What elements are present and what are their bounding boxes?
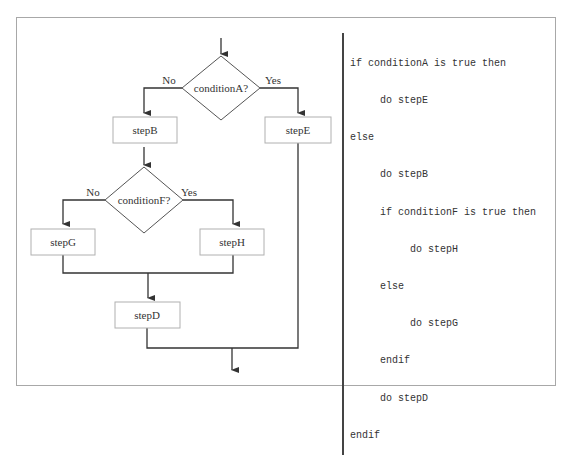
conditionA-no-arrow: [144, 88, 182, 113]
stepG-label: stepG: [50, 236, 76, 248]
code-line: do stepB: [350, 169, 536, 181]
pseudocode-block: if conditionA is true then do stepE else…: [342, 33, 536, 455]
code-line: else: [350, 281, 536, 293]
stepH-label: stepH: [219, 236, 245, 248]
code-line: if conditionF is true then: [350, 207, 536, 219]
code-line: do stepG: [350, 318, 536, 330]
stepE-label: stepE: [286, 124, 311, 136]
conditionA-no-label: No: [162, 74, 176, 86]
conditionA-yes-label: Yes: [265, 74, 281, 86]
code-line: else: [350, 132, 536, 144]
conditionF-yes-arrow: [183, 200, 233, 224]
code-line: endif: [350, 430, 536, 442]
conditionF-yes-label: Yes: [181, 186, 197, 198]
code-line: do stepE: [350, 95, 536, 107]
stepB-label: stepB: [132, 124, 157, 136]
conditionA-label: conditionA?: [194, 82, 248, 94]
stepD-label: stepD: [134, 309, 160, 321]
conditionA-yes-arrow: [260, 88, 298, 113]
conditionF-label: conditionF?: [118, 194, 171, 206]
merge-line: [63, 255, 233, 273]
conditionF-no-label: No: [86, 186, 100, 198]
code-line: do stepD: [350, 393, 536, 405]
code-line: if conditionA is true then: [350, 58, 536, 70]
code-line: do stepH: [350, 244, 536, 256]
conditionF-no-arrow: [63, 200, 105, 224]
code-line: endif: [350, 355, 536, 367]
